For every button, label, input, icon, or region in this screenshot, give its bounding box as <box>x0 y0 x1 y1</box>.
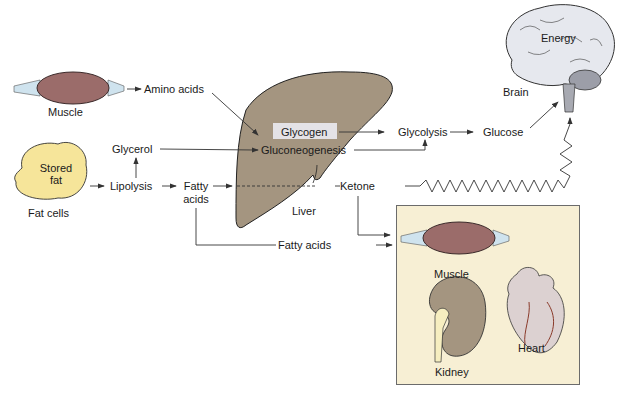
lipolysis-label: Lipolysis <box>110 180 152 192</box>
fatty-acids-label-2: acids <box>180 193 212 205</box>
amino-acids-label: Amino acids <box>144 83 204 95</box>
glycerol-label: Glycerol <box>112 143 152 155</box>
muscle-panel-icon <box>401 222 509 254</box>
muscle-panel-label: Muscle <box>434 268 469 280</box>
fatty-acids-label-1: Fatty <box>180 180 212 192</box>
fatty-acids-bottom-label: Fatty acids <box>278 239 331 251</box>
ketone-label: Ketone <box>340 180 375 192</box>
glucose-label: Glucose <box>483 126 523 138</box>
glycogen-label: Glycogen <box>281 126 327 138</box>
fat-cells-label: Fat cells <box>28 207 69 219</box>
stored-fat-label-1: Stored <box>36 162 76 174</box>
target-organs-art <box>397 206 581 386</box>
heart-label: Heart <box>518 342 545 354</box>
glycolysis-label: Glycolysis <box>398 126 448 138</box>
target-organs-panel <box>396 205 580 385</box>
heart-icon <box>507 267 564 352</box>
liver-label: Liver <box>292 205 316 217</box>
muscle-top-icon <box>14 72 124 104</box>
gluconeogenesis-label: Gluconeogenesis <box>261 144 346 156</box>
stored-fat-label-2: fat <box>36 174 76 186</box>
kidney-label: Kidney <box>435 366 469 378</box>
energy-label: Energy <box>541 32 576 44</box>
muscle-top-label: Muscle <box>48 106 83 118</box>
brain-label: Brain <box>503 86 529 98</box>
